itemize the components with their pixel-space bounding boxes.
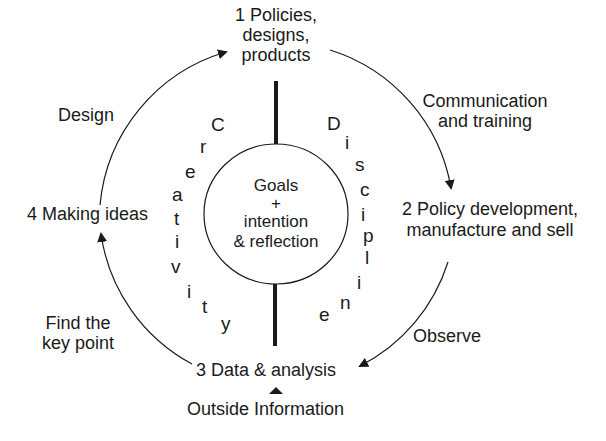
outside-info-arrow-icon [269,387,283,394]
creativity-letter: C [211,115,225,134]
creativity-letter: y [221,314,231,333]
creativity-letter: i [187,282,191,301]
edge-label-line: key point [28,333,128,353]
discipline-letter: l [365,248,369,267]
center-line: + [204,196,348,212]
discipline-letter: c [360,180,370,199]
creativity-letter: t [174,209,179,228]
discipline-letter: p [363,226,374,245]
creativity-letter: t [202,297,207,316]
discipline-letter: i [345,133,349,152]
node-2-line: manufacture and sell [380,220,600,241]
center-line: & reflection [204,232,348,252]
center-line: intention [204,212,348,232]
edge-label-line: Find the [28,313,128,333]
edge-find-key-point-label: Find the key point [28,313,128,353]
discipline-letter: i [361,205,365,224]
node-1-line: designs, [214,25,338,45]
node-3: 3 Data & analysis [196,361,336,380]
creativity-letter: v [171,257,181,276]
node-2-line: 2 Policy development, [380,199,600,220]
node-2: 2 Policy development, manufacture and se… [380,199,600,241]
center-line: Goals [204,176,348,196]
creativity-letter: r [200,137,206,156]
node-4: 4 Making ideas [27,205,148,224]
edge-design-label: Design [58,106,114,125]
discipline-letter: D [327,114,341,133]
center-text: Goals + intention & reflection [204,176,348,252]
creativity-letter: i [175,232,179,251]
discipline-letter: s [355,155,365,174]
edge-communication-label: Communication and training [410,91,560,131]
discipline-letter: e [319,305,330,324]
creativity-letter: e [185,162,196,181]
node-1-line: products [214,45,338,65]
creativity-letter: a [172,185,183,204]
edge-label-line: Communication [410,91,560,111]
edge-label-line: and training [410,111,560,131]
discipline-letter: i [357,273,361,292]
arc-observe [360,262,448,366]
outside-information-label: Outside Information [187,400,344,419]
discipline-letter: n [340,293,351,312]
node-1: 1 Policies, designs, products [214,5,338,65]
edge-observe-label: Observe [413,327,481,346]
node-1-line: 1 Policies, [214,5,338,25]
